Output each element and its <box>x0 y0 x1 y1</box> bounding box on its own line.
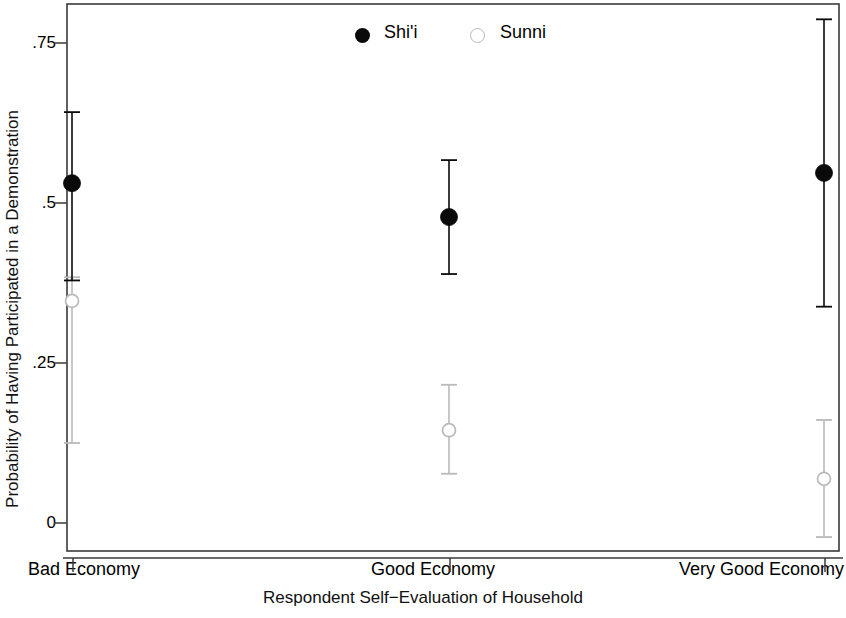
data-point-shii <box>64 175 81 192</box>
data-point-sunni <box>818 472 831 485</box>
data-point-sunni <box>66 294 79 307</box>
data-point-sunni <box>443 424 456 437</box>
data-point-shii <box>816 164 833 181</box>
plot-area <box>0 0 846 618</box>
plot-frame <box>67 4 839 551</box>
data-point-shii <box>441 209 458 226</box>
x-axis-ticks <box>73 558 825 572</box>
chart-figure: Probability of Having Participated in a … <box>0 0 846 618</box>
y-axis-ticks <box>54 43 67 523</box>
series-sunni <box>64 277 832 537</box>
series-shii <box>64 19 833 306</box>
